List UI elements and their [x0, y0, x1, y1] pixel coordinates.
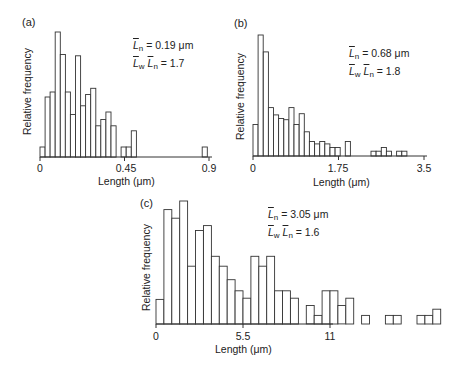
- histogram-bar: [330, 291, 338, 324]
- histogram-bar: [251, 256, 259, 324]
- histogram-bar: [402, 151, 407, 156]
- histogram-bar: [81, 106, 86, 157]
- histogram-bar: [91, 88, 96, 157]
- histogram-bar: [294, 125, 299, 157]
- histogram-bar: [284, 120, 289, 156]
- histogram-bar: [268, 108, 273, 156]
- histogram-bar: [325, 144, 330, 156]
- histogram-bar: [417, 315, 425, 324]
- histogram-bar: [274, 115, 279, 156]
- annotation-a: Ln = 0.19 μm Lw Ln = 1.7: [133, 38, 193, 74]
- histogram-bar: [330, 148, 335, 157]
- histogram-bar: [40, 147, 45, 157]
- histogram-bar: [164, 210, 172, 324]
- histogram-bar: [376, 151, 381, 156]
- histogram-bar: [345, 142, 350, 157]
- histogram-bar: [433, 309, 441, 324]
- anno-ln-c: = 3.05 μm: [281, 208, 328, 220]
- histogram-bar: [338, 306, 346, 324]
- histogram-bar: [101, 120, 106, 158]
- anno-ratio-b: = 1.8: [377, 65, 401, 77]
- histogram-bar: [188, 266, 196, 324]
- histogram-bar: [425, 315, 433, 324]
- x-tick-c-1: 5.5: [236, 330, 251, 342]
- histogram-bar: [258, 35, 263, 156]
- histogram-bar: [172, 218, 180, 324]
- histogram-bar: [45, 97, 50, 157]
- histogram-bar: [227, 280, 235, 324]
- x-tick-c-0: 0: [153, 330, 159, 342]
- histogram-bar: [111, 126, 116, 157]
- histogram-bar: [121, 147, 126, 157]
- x-tick-b-1: 1.75: [328, 162, 348, 174]
- histogram-panel-b: (b) Relative frequency 0 1.75 3.5 Length…: [227, 0, 454, 186]
- x-tick-b-0: 0: [250, 162, 256, 174]
- histogram-bar: [65, 92, 70, 157]
- histogram-bar: [314, 315, 322, 324]
- x-tick-a-2: 0.9: [202, 162, 217, 174]
- histogram-bar: [283, 291, 291, 324]
- histogram-bar: [279, 119, 284, 157]
- histogram-bar: [219, 266, 227, 324]
- histogram-bar: [202, 147, 207, 157]
- histogram-bar: [397, 151, 402, 156]
- anno-ln-a: = 0.19 μm: [146, 39, 193, 51]
- histogram-bar: [386, 151, 391, 156]
- histogram-bar: [335, 148, 340, 157]
- histogram-bar: [196, 231, 204, 325]
- x-axis-label-c: Length (μm): [215, 343, 272, 355]
- histogram-bar: [204, 226, 212, 324]
- histogram-bar: [211, 256, 219, 324]
- histogram-bar: [304, 132, 309, 156]
- histogram-bar: [322, 291, 330, 324]
- x-tick-b-2: 3.5: [417, 162, 432, 174]
- histogram-bar: [126, 147, 131, 157]
- histogram-bar: [156, 299, 164, 324]
- histogram-bar: [346, 298, 354, 324]
- histogram-bar: [267, 256, 275, 324]
- histogram-bar: [76, 56, 81, 157]
- histogram-bar: [371, 151, 376, 156]
- histogram-bar: [263, 52, 268, 156]
- histogram-bar: [385, 315, 393, 324]
- histogram-bar: [275, 291, 283, 324]
- x-tick-c-2: 11: [325, 330, 336, 342]
- histogram-plot-a: [0, 0, 227, 186]
- histogram-bar: [96, 126, 101, 157]
- anno-ratio-a: = 1.7: [161, 57, 185, 69]
- histogram-bar: [306, 306, 314, 324]
- histogram-bar: [253, 125, 258, 157]
- anno-ln-b: = 0.68 μm: [362, 47, 409, 59]
- annotation-c: Ln = 3.05 μm Lw Ln = 1.6: [268, 207, 328, 243]
- histogram-bar: [299, 114, 304, 156]
- histogram-panel-a: (a) Relative frequency 0 0.45 0.9 Length…: [0, 0, 227, 186]
- x-tick-a-0: 0: [37, 162, 43, 174]
- histogram-bar: [320, 142, 325, 157]
- annotation-b: Ln = 0.68 μm Lw Ln = 1.8: [349, 46, 409, 82]
- anno-ratio-c: = 1.6: [296, 226, 320, 238]
- histogram-bar: [55, 32, 60, 157]
- histogram-bar: [289, 108, 294, 156]
- histogram-plot-b: [227, 0, 454, 186]
- histogram-bar: [309, 142, 314, 157]
- histogram-bar: [50, 92, 55, 157]
- histogram-bar: [86, 95, 91, 158]
- histogram-bar: [131, 131, 136, 157]
- x-tick-a-1: 0.45: [116, 162, 136, 174]
- histogram-bar: [180, 201, 188, 324]
- histogram-bar: [235, 291, 243, 324]
- histogram-bar: [362, 315, 370, 324]
- histogram-bar: [60, 55, 65, 158]
- histogram-bar: [243, 298, 251, 324]
- histogram-panel-c: (c) Relative frequency 0 5.5 11 Length (…: [110, 185, 350, 372]
- histogram-bar: [291, 298, 299, 324]
- histogram-bar: [381, 148, 386, 157]
- histogram-bar: [70, 115, 75, 158]
- histogram-bar: [259, 266, 267, 324]
- histogram-bar: [106, 112, 111, 157]
- histogram-bar: [393, 315, 401, 324]
- histogram-bar: [315, 144, 320, 156]
